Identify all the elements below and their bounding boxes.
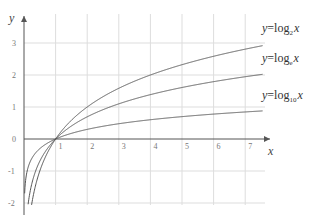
curve-label-e: y=logex bbox=[261, 51, 300, 67]
y-tick: -1 bbox=[8, 167, 15, 176]
y-tick: 3 bbox=[12, 39, 16, 48]
x-tick: 1 bbox=[59, 142, 63, 151]
curve-labels: y=log2xy=logexy=log10x bbox=[261, 21, 303, 104]
x-tick: 5 bbox=[185, 142, 189, 151]
grid bbox=[24, 14, 265, 205]
x-tick: 4 bbox=[153, 142, 157, 151]
y-arrow-icon bbox=[21, 16, 27, 22]
curve-label-10: y=log10x bbox=[261, 88, 303, 104]
tick-labels: 12345673210-1-2 bbox=[8, 39, 252, 208]
curves bbox=[25, 46, 263, 205]
curve-2 bbox=[32, 46, 263, 205]
y-tick: 2 bbox=[12, 71, 16, 80]
y-tick: 0 bbox=[12, 135, 16, 144]
x-tick: 2 bbox=[90, 142, 94, 151]
x-tick: 6 bbox=[217, 142, 221, 151]
x-tick: 3 bbox=[122, 142, 126, 151]
y-tick: 1 bbox=[12, 103, 16, 112]
x-axis-label: x bbox=[267, 144, 274, 158]
curve-10 bbox=[25, 111, 263, 193]
y-tick: -2 bbox=[8, 199, 15, 208]
x-arrow-icon bbox=[264, 136, 270, 142]
log-functions-chart: xy 12345673210-1-2 y=log2xy=logexy=log10… bbox=[0, 0, 316, 217]
curve-label-2: y=log2x bbox=[261, 21, 300, 37]
y-axis-label: y bbox=[8, 11, 15, 25]
x-tick: 7 bbox=[248, 142, 252, 151]
